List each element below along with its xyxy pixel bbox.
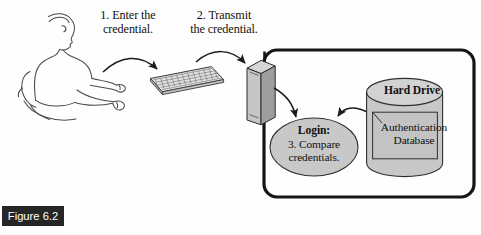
figure-container: 1. Enter the credential. 2. Transmit the… <box>0 0 481 235</box>
login-title-label: Login: <box>272 124 356 138</box>
arrow-db-to-login <box>338 108 369 116</box>
hard-drive-label: Hard Drive <box>364 84 460 98</box>
arrow-step-3 <box>274 88 296 117</box>
figure-caption-bar: Figure 6.2 <box>2 206 64 226</box>
arrow-step-2 <box>196 52 245 63</box>
login-body-label: 3. Compare credentials. <box>266 138 362 165</box>
arrow-step-1 <box>103 58 157 72</box>
server-tower-icon <box>247 60 275 124</box>
figure-caption-text: Figure 6.2 <box>2 206 64 226</box>
authentication-database-label: Authentication Database <box>366 121 462 148</box>
step-2-label: 2. Transmit the credential. <box>176 8 272 37</box>
keyboard-icon <box>151 67 224 95</box>
step-1-label: 1. Enter the credential. <box>82 8 174 37</box>
